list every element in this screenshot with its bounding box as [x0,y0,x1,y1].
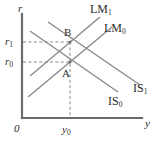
tick-label-y0-sub: 0 [67,128,71,137]
curve-label-lm1: LM1 [90,3,112,15]
curve-label-lm1-sub: 1 [108,8,112,17]
islm-chart-svg [0,0,157,141]
tick-label-r0-sub: 0 [9,60,13,69]
curve-label-is0: IS0 [108,95,122,107]
curve-label-lm1-base: LM [90,2,108,16]
curve-label-is0-sub: 0 [119,100,123,109]
tick-label-r1-sub: 1 [9,40,13,49]
curve-label-is1-sub: 1 [144,87,148,96]
point-marker-b [69,41,72,44]
curve-label-lm0: LM0 [104,22,126,34]
y-axis-label: r [18,3,22,14]
tick-label-r0: r0 [5,56,13,67]
islm-figure: r y 0 r1 r0 y0 LM1 LM0 IS1 IS0 B A [0,0,157,141]
curve-label-is1: IS1 [133,82,147,94]
tick-label-y0: y0 [62,124,71,135]
x-axis-label: y [145,118,150,129]
curve-label-lm0-sub: 0 [122,27,126,36]
tick-label-r1: r1 [5,36,13,47]
curve-label-is1-base: IS [133,81,144,95]
origin-label: 0 [14,123,20,134]
curve-label-lm0-base: LM [104,21,122,35]
point-marker-a [69,61,72,64]
point-label-b: B [64,27,71,38]
point-label-a: A [62,68,70,79]
curve-label-is0-base: IS [108,94,119,108]
